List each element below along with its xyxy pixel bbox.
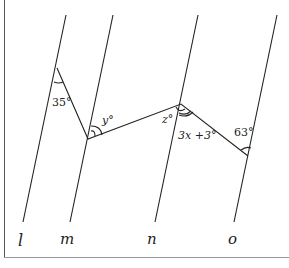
angle-label-35: 35° [52, 96, 72, 109]
angle-arc-3x-a [179, 111, 191, 114]
angle-label-y: y° [101, 114, 114, 127]
angle-arc-y-inner [91, 131, 95, 136]
line-label-n: n [147, 230, 157, 248]
angle-label-63: 63° [234, 126, 254, 139]
line-label-m: m [60, 230, 74, 248]
zigzag-transversal [57, 68, 248, 156]
angle-arc-z [176, 107, 185, 111]
angle-arc-35 [54, 82, 63, 83]
angle-label-3x-plus-3: 3x +3° [178, 129, 216, 142]
line-l [23, 15, 66, 222]
line-label-l: l [18, 231, 23, 250]
line-label-o: o [228, 230, 237, 248]
angle-label-z: z° [161, 113, 173, 126]
geometry-diagram: 35° y° z° 3x +3° 63° l m n o [0, 0, 289, 268]
line-o [234, 15, 277, 222]
